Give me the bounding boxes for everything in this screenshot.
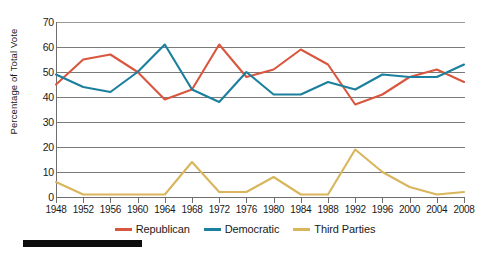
legend-item-republican[interactable]: Republican: [115, 223, 190, 235]
y-tick-label-0: 0: [20, 191, 54, 203]
y-tick-label-20: 20: [20, 141, 54, 153]
x-tick-mark-1984: [301, 198, 302, 203]
series-line-third-parties: [56, 150, 464, 195]
legend-swatch-icon: [115, 228, 132, 231]
series-layer: [56, 22, 464, 197]
legend-label: Third Parties: [314, 223, 375, 235]
legend-swatch-icon: [204, 228, 221, 231]
decorative-bottom-bar: [23, 240, 142, 247]
chart-legend: RepublicanDemocraticThird Parties: [0, 223, 490, 235]
x-tick-mark-1948: [56, 198, 57, 203]
series-line-republican: [56, 45, 464, 105]
chart-figure: 706050403020100 Percentage of Total Vote…: [0, 0, 490, 253]
x-tick-mark-1988: [328, 198, 329, 203]
y-axis-title: Percentage of Total Vote: [8, 0, 19, 167]
x-tick-mark-2004: [437, 198, 438, 203]
x-tick-mark-1996: [382, 198, 383, 203]
y-axis-labels: 706050403020100: [20, 0, 54, 253]
legend-item-third-parties[interactable]: Third Parties: [293, 223, 375, 235]
x-tick-label-2008: 2008: [444, 204, 484, 215]
x-tick-mark-1980: [274, 198, 275, 203]
x-tick-mark-1968: [192, 198, 193, 203]
y-tick-label-50: 50: [20, 66, 54, 78]
y-tick-label-10: 10: [20, 166, 54, 178]
x-tick-mark-2000: [410, 198, 411, 203]
legend-label: Democratic: [225, 223, 280, 235]
x-tick-mark-1972: [219, 198, 220, 203]
y-tick-label-60: 60: [20, 41, 54, 53]
y-tick-label-70: 70: [20, 16, 54, 28]
legend-label: Republican: [136, 223, 190, 235]
x-axis-line: [56, 197, 464, 198]
x-tick-mark-1960: [138, 198, 139, 203]
y-tick-label-40: 40: [20, 91, 54, 103]
x-tick-mark-1956: [110, 198, 111, 203]
x-tick-mark-1992: [355, 198, 356, 203]
x-tick-mark-1964: [165, 198, 166, 203]
x-tick-mark-2008: [464, 198, 465, 203]
legend-swatch-icon: [293, 228, 310, 231]
x-tick-mark-1976: [246, 198, 247, 203]
x-tick-mark-1952: [83, 198, 84, 203]
legend-item-democratic[interactable]: Democratic: [204, 223, 280, 235]
y-tick-label-30: 30: [20, 116, 54, 128]
